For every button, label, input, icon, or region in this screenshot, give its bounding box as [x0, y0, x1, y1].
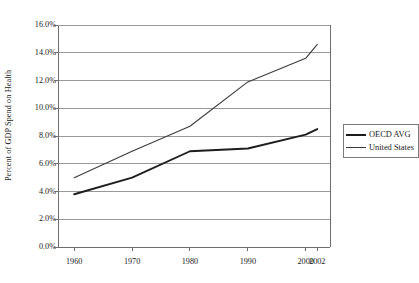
- legend-item-oecd-avg: OECD AVG: [346, 128, 414, 141]
- chart-legend: OECD AVG United States: [343, 124, 419, 158]
- data-series-layer: [74, 44, 317, 194]
- legend-item-united-states: United States: [346, 141, 414, 154]
- legend-line-swatch-icon: [346, 132, 366, 138]
- gridlines: [58, 25, 330, 247]
- legend-label: OECD AVG: [369, 130, 411, 139]
- legend-line-swatch-icon: [346, 145, 366, 151]
- series-line-oecd-avg: [74, 129, 317, 194]
- legend-label: United States: [369, 143, 414, 152]
- y-axis-tick-marks: [54, 25, 58, 247]
- x-axis-tick-marks: [74, 247, 317, 251]
- series-line-united-states: [74, 44, 317, 177]
